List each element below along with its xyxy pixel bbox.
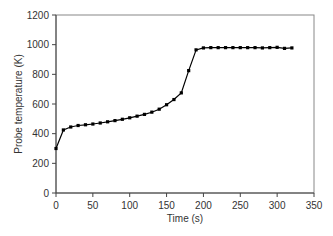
y-tick-label: 1000 [27, 39, 50, 50]
data-point-marker [194, 48, 197, 51]
data-point-marker [283, 47, 286, 50]
data-point-marker [143, 113, 146, 116]
y-tick-label: 800 [32, 69, 49, 80]
data-point-marker [91, 122, 94, 125]
x-tick-label: 250 [232, 200, 249, 211]
data-point-marker [268, 46, 271, 49]
data-series [54, 46, 293, 150]
data-point-marker [253, 46, 256, 49]
x-tick-label: 150 [158, 200, 175, 211]
y-tick-label: 600 [32, 99, 49, 110]
data-point-marker [172, 98, 175, 101]
series-line [56, 47, 292, 148]
data-point-marker [113, 119, 116, 122]
data-point-marker [62, 128, 65, 131]
data-point-marker [246, 46, 249, 49]
data-point-marker [150, 111, 153, 114]
plot-area-frame [56, 15, 314, 193]
x-tick-label: 200 [195, 200, 212, 211]
data-point-marker [128, 116, 131, 119]
plot-border [56, 15, 314, 193]
y-tick-label: 200 [32, 158, 49, 169]
data-point-marker [180, 91, 183, 94]
data-point-marker [209, 46, 212, 49]
y-tick-label: 1200 [27, 10, 50, 21]
y-tick-label: 400 [32, 128, 49, 139]
x-axis: 050100150200250300350 [53, 193, 323, 211]
data-point-marker [99, 121, 102, 124]
data-point-marker [224, 46, 227, 49]
data-point-marker [231, 46, 234, 49]
data-point-marker [202, 46, 205, 49]
x-tick-label: 0 [53, 200, 59, 211]
data-point-marker [77, 124, 80, 127]
data-point-marker [84, 123, 87, 126]
data-point-marker [54, 147, 57, 150]
y-axis-title: Probe temperature (K) [13, 54, 24, 154]
data-point-marker [158, 108, 161, 111]
data-point-marker [69, 125, 72, 128]
x-tick-label: 300 [269, 200, 286, 211]
data-point-marker [121, 118, 124, 121]
data-point-marker [290, 46, 293, 49]
x-tick-label: 350 [306, 200, 323, 211]
data-point-marker [217, 46, 220, 49]
data-point-marker [239, 46, 242, 49]
data-point-marker [106, 120, 109, 123]
data-point-marker [187, 69, 190, 72]
x-tick-label: 100 [121, 200, 138, 211]
y-axis: 020040060080010001200 [27, 10, 56, 199]
x-tick-label: 50 [87, 200, 99, 211]
y-tick-label: 0 [43, 188, 49, 199]
data-point-marker [135, 115, 138, 118]
line-chart: 020040060080010001200 050100150200250300… [0, 0, 333, 236]
data-point-marker [261, 46, 264, 49]
x-axis-title: Time (s) [167, 213, 203, 224]
data-point-marker [165, 103, 168, 106]
data-point-marker [276, 46, 279, 49]
